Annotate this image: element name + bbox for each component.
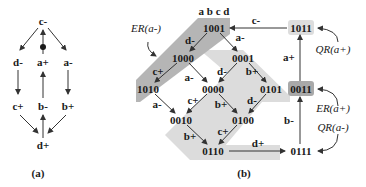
label-0110-0111: d+ xyxy=(252,137,264,149)
state-1011: 1011 xyxy=(290,22,311,34)
arrow-qr-a-plus xyxy=(318,28,338,42)
label-1001-0001: a- xyxy=(235,31,245,43)
edge-cminus-aminus xyxy=(48,28,66,50)
label-0000-0100: b+ xyxy=(215,98,227,110)
label-0001-0101: b+ xyxy=(246,65,258,77)
caption-b: (b) xyxy=(237,167,251,180)
node-b-minus: b- xyxy=(38,100,48,112)
node-d-plus: d+ xyxy=(37,139,49,151)
annotation-qr-a-minus: QR(a-) xyxy=(317,121,348,134)
state-0111: 0111 xyxy=(291,145,312,157)
label-1000-1010: c+ xyxy=(152,65,163,77)
node-a-minus: a- xyxy=(63,56,73,68)
state-0010: 0010 xyxy=(170,114,193,126)
token-marker xyxy=(40,44,46,50)
state-0110: 0110 xyxy=(202,145,224,157)
label-0001-0000: d- xyxy=(217,65,227,77)
panel-a-graph: c- d- a+ a- c+ b- b+ d+ (a) xyxy=(12,15,74,180)
annotation-er-a-minus: ER(a-) xyxy=(130,22,161,35)
label-1011-1001: c- xyxy=(252,14,261,26)
label-0011-1011: a+ xyxy=(283,51,295,63)
edge-cplus-dplus xyxy=(20,115,38,133)
node-b-plus: b+ xyxy=(62,100,74,112)
edge-bplus-dplus xyxy=(48,115,66,133)
caption-a: (a) xyxy=(32,167,45,180)
state-1001: 1001 xyxy=(203,22,225,34)
node-d-minus: d- xyxy=(13,56,23,68)
label-1000-0000: a- xyxy=(184,71,194,83)
state-0000: 0000 xyxy=(202,83,225,95)
state-bit-header: a b c d xyxy=(199,5,230,17)
state-1000: 1000 xyxy=(172,52,195,64)
annotation-er-a-plus: ER(a+) xyxy=(315,102,350,115)
annotation-qr-a-plus: QR(a+) xyxy=(316,43,351,56)
label-0111-0011: b- xyxy=(284,114,294,126)
node-c-plus: c+ xyxy=(12,100,23,112)
arrow-er-a-minus xyxy=(148,42,156,56)
label-1001-1000: d- xyxy=(185,34,195,46)
label-0101-0100: d- xyxy=(247,94,257,106)
label-0100-0110: c+ xyxy=(217,125,228,137)
arrow-qr-a-minus xyxy=(318,134,338,151)
label-1010-0010: a- xyxy=(152,98,162,110)
edge-cminus-dminus xyxy=(20,28,38,50)
state-0100: 0100 xyxy=(232,114,255,126)
label-0000-0010: c+ xyxy=(187,94,198,106)
node-c-minus: c- xyxy=(39,15,48,27)
state-0001: 0001 xyxy=(232,52,254,64)
state-0101: 0101 xyxy=(260,83,282,95)
diagram-canvas: c- d- a+ a- c+ b- b+ d+ (a) xyxy=(0,0,366,187)
node-a-plus: a+ xyxy=(37,56,49,68)
state-0011: 0011 xyxy=(290,83,311,95)
label-0010-0110: b+ xyxy=(184,130,196,142)
panel-b-graph: a b c d 1001 1000 0001 1010 0000 0101 00… xyxy=(130,5,351,180)
state-1010: 1010 xyxy=(137,83,160,95)
